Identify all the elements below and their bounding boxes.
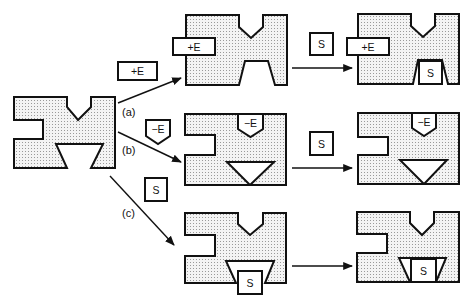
svg-text:−E: −E xyxy=(151,123,164,135)
svg-text:S: S xyxy=(246,277,253,289)
svg-text:+E: +E xyxy=(187,41,200,53)
free-substrate-b: S xyxy=(310,132,333,155)
free-minus-e: −E xyxy=(146,120,170,144)
label-a: (a) xyxy=(122,106,135,118)
label-b: (b) xyxy=(122,144,135,156)
arrow-a xyxy=(118,78,181,103)
free-substrate-c: S xyxy=(145,178,167,201)
enzyme-plus-e-substrate-complex: +E S xyxy=(347,14,459,84)
svg-text:S: S xyxy=(318,38,325,50)
label-c: (c) xyxy=(122,207,135,219)
svg-text:S: S xyxy=(420,265,427,277)
svg-text:−E: −E xyxy=(244,117,257,129)
svg-text:S: S xyxy=(427,67,434,79)
svg-text:−E: −E xyxy=(417,116,430,128)
enzyme-plus-e-complex: +E xyxy=(173,15,287,85)
enzyme-substrate-induced-fit: S xyxy=(357,212,459,282)
free-plus-e: +E xyxy=(118,62,157,80)
enzyme-diagram: (a) (b) (c) +E −E S +E S +E S −E S xyxy=(0,0,473,306)
free-enzyme xyxy=(14,97,115,168)
svg-text:S: S xyxy=(152,184,159,196)
svg-text:S: S xyxy=(318,138,325,150)
enzyme-minus-e-complex: −E xyxy=(185,114,286,185)
free-substrate-a: S xyxy=(310,33,333,55)
svg-text:+E: +E xyxy=(361,41,374,53)
enzyme-substrate-initial: S xyxy=(185,213,286,294)
svg-text:+E: +E xyxy=(131,65,144,77)
enzyme-minus-e-no-binding: −E xyxy=(358,113,459,184)
